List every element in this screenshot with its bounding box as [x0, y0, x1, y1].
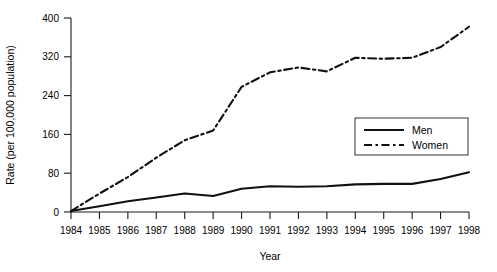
y-axis-title: Rate (per 100,000 population) — [4, 45, 16, 185]
legend-label-women: Women — [412, 139, 448, 151]
x-axis-group: 1984198519861987198819891990199119921993… — [60, 212, 481, 262]
x-axis-ticks — [71, 212, 469, 219]
x-tick-label: 1985 — [88, 225, 111, 236]
y-axis-ticks — [64, 18, 71, 212]
chart-canvas: 080160240320400 Rate (per 100,000 popula… — [0, 0, 497, 272]
y-tick-label: 400 — [42, 13, 59, 24]
x-tick-label: 1998 — [458, 225, 481, 236]
x-tick-label: 1988 — [174, 225, 197, 236]
x-tick-label: 1993 — [316, 225, 339, 236]
y-tick-label: 0 — [53, 207, 59, 218]
y-axis-group: 080160240320400 Rate (per 100,000 popula… — [4, 13, 71, 218]
x-tick-label: 1996 — [401, 225, 424, 236]
x-tick-label: 1997 — [429, 225, 452, 236]
series-line-men — [71, 172, 469, 211]
x-axis-tick-labels: 1984198519861987198819891990199119921993… — [60, 225, 481, 236]
x-tick-label: 1995 — [373, 225, 396, 236]
x-tick-label: 1992 — [287, 225, 310, 236]
legend-label-men: Men — [412, 124, 433, 136]
y-tick-label: 80 — [48, 168, 60, 179]
x-axis-title: Year — [259, 250, 281, 262]
line-chart-figure: 080160240320400 Rate (per 100,000 popula… — [0, 0, 497, 272]
x-tick-label: 1990 — [230, 225, 253, 236]
x-tick-label: 1984 — [60, 225, 83, 236]
legend: Men Women — [355, 118, 468, 155]
x-tick-label: 1994 — [344, 225, 367, 236]
x-tick-label: 1991 — [259, 225, 282, 236]
y-tick-label: 320 — [42, 51, 59, 62]
y-axis-tick-labels: 080160240320400 — [42, 13, 59, 218]
y-tick-label: 160 — [42, 129, 59, 140]
x-tick-label: 1987 — [145, 225, 168, 236]
x-tick-label: 1989 — [202, 225, 225, 236]
x-tick-label: 1986 — [117, 225, 140, 236]
y-tick-label: 240 — [42, 90, 59, 101]
